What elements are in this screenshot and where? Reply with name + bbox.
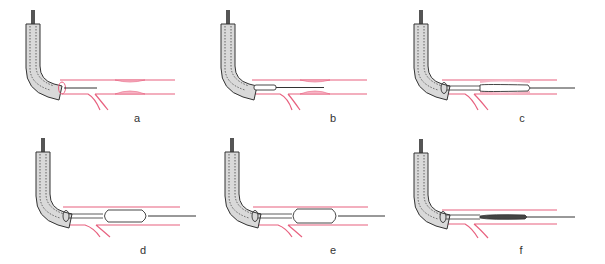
- panel-e: e: [200, 132, 400, 264]
- panel-label-c: c: [512, 112, 532, 124]
- diagram-b: [200, 0, 400, 132]
- panel-a: a: [0, 0, 200, 132]
- diagram-c: [400, 0, 605, 132]
- diagram-d: [0, 132, 200, 264]
- panel-label-d: d: [133, 244, 153, 256]
- diagram-f: [400, 132, 605, 264]
- panel-label-e: e: [323, 244, 343, 256]
- diagram-a: [0, 0, 200, 132]
- panel-f: f: [400, 132, 600, 264]
- diagram-e: [200, 132, 400, 264]
- panel-label-a: a: [127, 112, 147, 124]
- panel-label-b: b: [323, 112, 343, 124]
- panel-c: c: [400, 0, 600, 132]
- panel-d: d: [0, 132, 200, 264]
- panel-label-f: f: [511, 244, 531, 256]
- panel-b: b: [200, 0, 400, 132]
